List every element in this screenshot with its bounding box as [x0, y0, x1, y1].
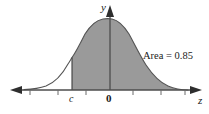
x-axis-label: z	[198, 95, 202, 106]
area-annotation-label: Area = 0.85	[143, 51, 193, 62]
x-axis-right-arrow-icon	[190, 86, 202, 94]
x-axis-tick-label-zero: 0	[106, 93, 112, 104]
x-axis-left-arrow-icon	[10, 86, 22, 94]
y-axis-up-arrow-icon	[106, 5, 114, 17]
normal-curve-figure: y z c 0 Area = 0.85	[0, 0, 209, 114]
x-axis-tick-label-c: c	[69, 94, 73, 104]
y-axis-label: y	[101, 2, 106, 13]
